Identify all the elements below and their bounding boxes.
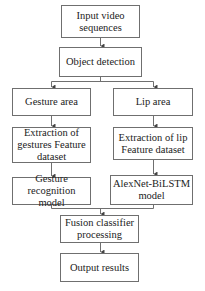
node-label: Output results (70, 262, 129, 274)
node-gesture-area: Gesture area (12, 88, 91, 116)
node-lip-area: Lip area (113, 88, 193, 116)
node-label: Gesture area (25, 96, 78, 108)
node-gesture-feature-extraction: Extraction of gestures Feature dataset (12, 127, 91, 163)
node-label: Extraction of lip Feature dataset (116, 132, 190, 156)
node-object-detection: Object detection (59, 47, 142, 77)
node-label: AlexNet-BiLSTM model (113, 178, 190, 202)
node-label: Fusion classifier processing (63, 217, 136, 241)
node-label: Object detection (66, 56, 135, 68)
node-label: Lip area (136, 96, 171, 108)
node-gesture-recognition-model: Gesture recognition model (12, 177, 91, 205)
node-input-video-sequences: Input video sequences (61, 5, 140, 38)
node-fusion-classifier: Fusion classifier processing (60, 215, 139, 243)
node-label: Gesture recognition model (15, 173, 88, 209)
node-output-results: Output results (60, 253, 139, 282)
node-alexnet-bilstm-model: AlexNet-BiLSTM model (110, 175, 193, 205)
node-label: Input video sequences (64, 10, 137, 34)
node-lip-feature-extraction: Extraction of lip Feature dataset (113, 127, 193, 160)
node-label: Extraction of gestures Feature dataset (15, 127, 88, 163)
